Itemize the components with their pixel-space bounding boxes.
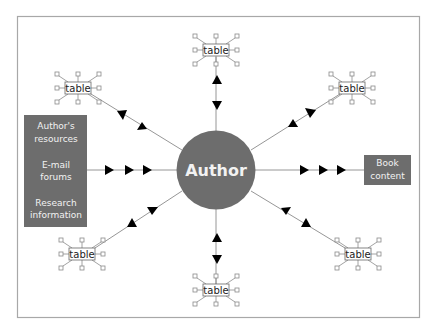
author-label: Author: [185, 161, 247, 180]
table-label: table: [345, 249, 370, 260]
source-label: resources: [34, 134, 78, 144]
author-diagram: Author Author's resources E-mail forums …: [0, 0, 433, 331]
book-content-label: Book: [376, 158, 399, 168]
source-label: information: [30, 210, 82, 220]
table-label: table: [69, 249, 94, 260]
table-label: table: [65, 83, 90, 94]
table-label: table: [203, 285, 228, 296]
source-label: Author's: [37, 121, 75, 131]
source-label: forums: [40, 172, 72, 182]
table-label: table: [339, 83, 364, 94]
book-content-label: content: [370, 171, 405, 181]
source-label: E-mail: [42, 160, 70, 170]
source-label: Research: [35, 198, 76, 208]
table-label: table: [203, 45, 228, 56]
